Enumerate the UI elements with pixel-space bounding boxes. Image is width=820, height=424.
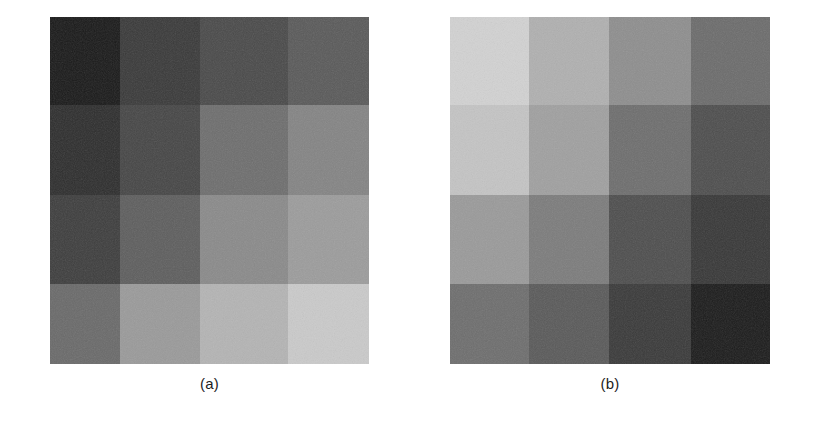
grid-cell (609, 284, 691, 364)
grid-cell (120, 284, 200, 364)
grid-cell (50, 195, 120, 284)
grid-cell (450, 105, 529, 195)
figure-description: Two grayscale 4x4 checkerboard intensity… (0, 0, 1, 1)
grid-cell (691, 105, 770, 195)
grid-cell (691, 17, 770, 105)
panel-caption-a: (a) (50, 375, 369, 392)
grid-cell (288, 105, 369, 195)
image-panel-a (50, 17, 369, 364)
grid-cell (200, 284, 288, 364)
grid-cell (50, 17, 120, 105)
grid-cell (120, 195, 200, 284)
grid-cell (288, 195, 369, 284)
grid-cell (200, 105, 288, 195)
grid-cell (200, 17, 288, 105)
grid-cell (450, 195, 529, 284)
grid-cell (609, 17, 691, 105)
grid-cell (450, 17, 529, 105)
grid-cell (691, 195, 770, 284)
panel-caption-b: (b) (450, 375, 770, 392)
grid-cell (288, 284, 369, 364)
grid-cell (120, 17, 200, 105)
grid-cell (529, 284, 609, 364)
grid-cell (609, 105, 691, 195)
grid-cell (120, 105, 200, 195)
grid-cell (200, 195, 288, 284)
grid-cell (691, 284, 770, 364)
grid-cell (50, 105, 120, 195)
grid-cell (529, 105, 609, 195)
grid-cell (609, 195, 691, 284)
grid-cell (529, 195, 609, 284)
figure-root: (a) (b) Two grayscale 4x4 checkerboard i… (0, 0, 820, 424)
grid-cell (529, 17, 609, 105)
grid-cell (288, 17, 369, 105)
image-panel-b (450, 17, 770, 364)
grid-cell (50, 284, 120, 364)
grid-cell (450, 284, 529, 364)
